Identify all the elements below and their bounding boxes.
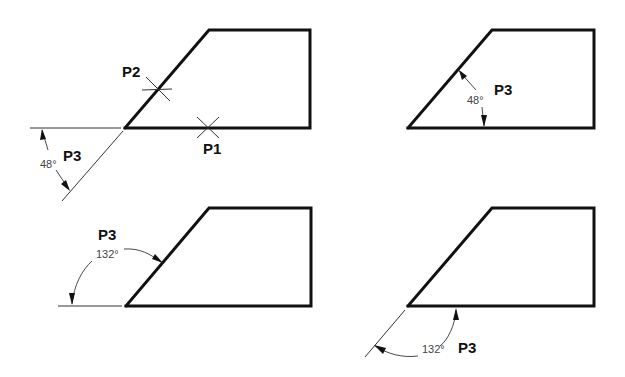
label-p2: P2 — [122, 63, 140, 80]
figure-top-left: 48° P3 P2 P1 — [30, 30, 310, 201]
label-p3: P3 — [63, 147, 81, 164]
figure-bottom-right: 132° P3 — [365, 208, 594, 357]
label-p3: P3 — [98, 226, 116, 243]
angle-value: 48° — [40, 158, 57, 170]
arrowhead-icon — [61, 180, 70, 191]
arrowhead-icon — [69, 293, 75, 305]
extension-line — [62, 131, 123, 201]
arrowhead-icon — [374, 345, 386, 354]
arrowhead-icon — [152, 254, 163, 263]
angle-value: 48° — [467, 94, 484, 106]
label-p1: P1 — [203, 140, 221, 157]
dimension-arc — [72, 261, 92, 304]
figure-top-right: 48° P3 — [408, 30, 594, 128]
arrowhead-icon — [40, 129, 46, 140]
arrowhead-icon — [481, 115, 487, 127]
trapezoid-shape — [408, 208, 594, 306]
dimension-arc — [440, 310, 456, 346]
angle-value: 132° — [422, 343, 445, 355]
figure-bottom-left: 132° P3 — [58, 208, 311, 306]
trapezoid-shape — [408, 30, 594, 128]
angle-value: 132° — [96, 248, 119, 260]
angle-dimension-diagram: 48° P3 P2 P1 48° P3 132° P3 132° P3 — [0, 0, 625, 377]
trapezoid-shape — [125, 30, 310, 128]
label-p3: P3 — [494, 81, 512, 98]
arrowhead-icon — [453, 308, 459, 320]
label-p3: P3 — [458, 339, 476, 356]
